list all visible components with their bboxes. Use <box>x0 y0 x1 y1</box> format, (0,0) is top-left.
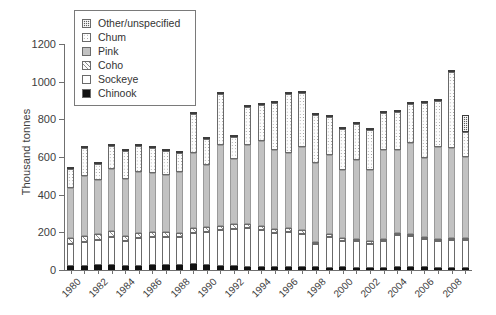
bar-segment <box>108 231 115 237</box>
bar-2007 <box>434 99 441 270</box>
bar-segment <box>81 146 88 148</box>
bar-segment <box>448 70 455 72</box>
y-tick <box>59 82 64 83</box>
bar-segment <box>230 137 237 158</box>
bar-segment <box>244 105 251 107</box>
x-tick <box>316 270 317 274</box>
legend-item-other-unspecified: Other/unspecified <box>82 16 189 30</box>
bar-segment <box>448 72 455 147</box>
bar-1993 <box>244 106 251 270</box>
y-tick <box>59 195 64 196</box>
bar-segment <box>353 122 360 124</box>
chart-legend: Other/unspecifiedChumPinkCohoSockeyeChin… <box>74 10 196 106</box>
bar-segment <box>271 267 278 270</box>
legend-label: Coho <box>98 60 123 70</box>
bar-segment <box>448 238 455 240</box>
bar-1998 <box>312 114 319 271</box>
bar-segment <box>462 240 469 269</box>
bar-segment <box>312 163 319 242</box>
bar-segment <box>94 164 101 179</box>
bar-segment <box>122 149 129 151</box>
y-tick-label: 0 <box>50 264 56 276</box>
bar-segment <box>108 146 115 169</box>
bar-segment <box>149 237 156 266</box>
bar-segment <box>366 128 373 130</box>
x-tick <box>288 270 289 274</box>
x-tick <box>356 270 357 274</box>
legend-item-coho: Coho <box>82 58 189 72</box>
bar-segment <box>326 268 333 270</box>
bar-segment <box>285 267 292 270</box>
bar-segment <box>353 239 360 241</box>
x-tick <box>411 270 412 274</box>
x-tick <box>424 270 425 274</box>
x-tick <box>166 270 167 274</box>
bar-segment <box>122 151 129 179</box>
bar-segment <box>326 117 333 156</box>
bar-segment <box>122 236 129 241</box>
bar-1992 <box>230 136 237 270</box>
bar-segment <box>353 160 360 239</box>
bar-segment <box>176 153 183 173</box>
x-tick-label: 1980 <box>59 276 83 300</box>
bar-segment <box>312 115 319 163</box>
x-tick <box>71 270 72 274</box>
bar-segment <box>366 241 373 243</box>
bar-segment <box>312 267 319 270</box>
bar-segment <box>162 151 169 175</box>
bar-segment <box>122 179 129 236</box>
x-tick-label: 1992 <box>222 276 246 300</box>
bar-segment <box>421 267 428 270</box>
x-tick <box>329 270 330 274</box>
bar-segment <box>380 113 387 150</box>
x-tick-label: 2004 <box>385 276 409 300</box>
bar-segment <box>285 92 292 94</box>
x-tick <box>112 270 113 274</box>
x-tick-label: 1994 <box>249 276 273 300</box>
bar-segment <box>203 137 210 139</box>
bar-2003 <box>380 112 387 270</box>
bar-segment <box>462 132 469 156</box>
legend-item-chinook: Chinook <box>82 86 189 100</box>
bar-segment <box>203 265 210 270</box>
bar-segment <box>81 236 88 241</box>
x-tick-label: 2000 <box>331 276 355 300</box>
bar-segment <box>258 103 265 105</box>
bar-segment <box>230 229 237 267</box>
bar-segment <box>81 176 88 236</box>
bar-segment <box>434 99 441 101</box>
bar-segment <box>176 151 183 153</box>
bar-segment <box>394 110 401 112</box>
bar-segment <box>353 268 360 270</box>
bar-1996 <box>285 93 292 270</box>
bar-segment <box>462 238 469 240</box>
bar-segment <box>176 237 183 264</box>
legend-label: Chinook <box>98 88 137 98</box>
bar-segment <box>94 234 101 240</box>
x-tick-label: 2002 <box>358 276 382 300</box>
bar-segment <box>190 233 197 264</box>
bar-segment <box>67 167 74 169</box>
bar-segment <box>271 101 278 103</box>
bar-segment <box>203 227 210 232</box>
bar-segment <box>217 226 224 230</box>
bar-segment <box>312 244 319 267</box>
bar-segment <box>339 267 346 270</box>
bar-segment <box>366 268 373 270</box>
bar-segment <box>94 180 101 235</box>
bar-segment <box>67 244 74 266</box>
bar-segment <box>203 139 210 165</box>
x-tick-label: 1988 <box>168 276 192 300</box>
bar-1985 <box>135 145 142 270</box>
bar-segment <box>434 239 441 241</box>
bar-segment <box>326 234 333 237</box>
legend-item-sockeye: Sockeye <box>82 72 189 86</box>
x-tick <box>180 270 181 274</box>
bar-segment <box>380 111 387 113</box>
bar-segment <box>217 230 224 266</box>
bar-segment <box>312 113 319 115</box>
bar-segment <box>190 264 197 270</box>
x-tick-label: 1998 <box>304 276 328 300</box>
bar-segment <box>108 265 115 270</box>
bar-segment <box>135 233 142 238</box>
